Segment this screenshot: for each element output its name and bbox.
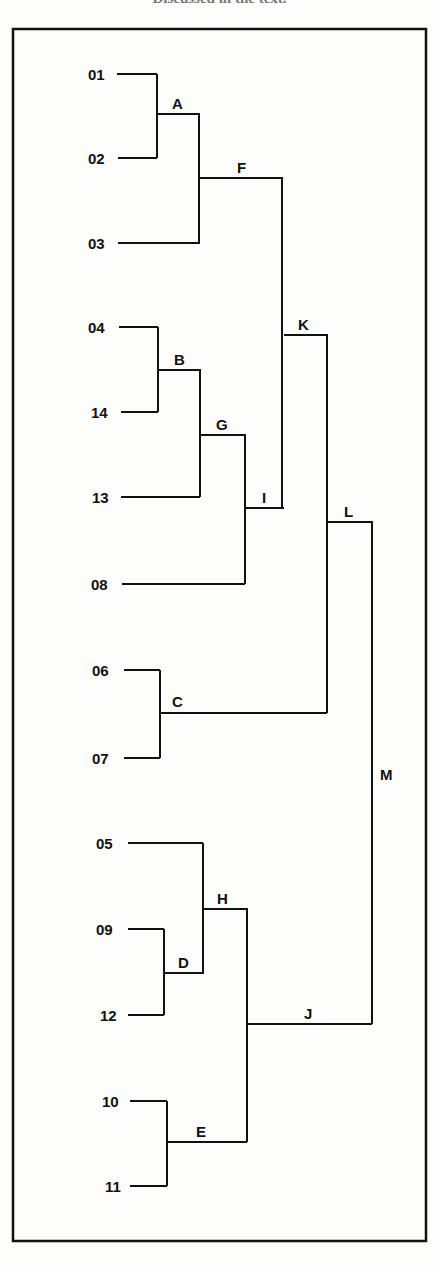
dendrogram: 01 02 03 04 14 13 08 06 07 05 09 12 10 1… bbox=[0, 0, 439, 1266]
leaf-label: 12 bbox=[100, 1007, 117, 1024]
leaf-label: 04 bbox=[88, 319, 105, 336]
leaf-label: 01 bbox=[88, 66, 105, 83]
leaf-label: 09 bbox=[96, 921, 113, 938]
node-label: C bbox=[172, 693, 183, 710]
leaf-label: 07 bbox=[92, 750, 109, 767]
leaf-label: 05 bbox=[96, 835, 113, 852]
node-label: F bbox=[237, 159, 246, 176]
leaf-lines bbox=[117, 74, 245, 1186]
leaf-label: 13 bbox=[92, 489, 109, 506]
leaf-label: 06 bbox=[92, 662, 109, 679]
node-label: B bbox=[174, 351, 185, 368]
leaf-label: 03 bbox=[88, 235, 105, 252]
leaf-label: 11 bbox=[105, 1178, 121, 1195]
leaf-label: 02 bbox=[88, 150, 105, 167]
leaf-label: 14 bbox=[91, 404, 108, 421]
frame-border bbox=[13, 29, 426, 1241]
node-label: G bbox=[216, 416, 228, 433]
node-label: E bbox=[196, 1123, 206, 1140]
node-label: D bbox=[178, 954, 189, 971]
node-label: K bbox=[298, 316, 309, 333]
leaf-label: 08 bbox=[91, 576, 108, 593]
leaf-label: 10 bbox=[102, 1093, 119, 1110]
node-label: I bbox=[262, 489, 266, 506]
node-label: M bbox=[380, 766, 393, 783]
node-label: A bbox=[172, 95, 183, 112]
node-label: J bbox=[304, 1005, 312, 1022]
node-label: H bbox=[217, 890, 228, 907]
cluster-lines bbox=[157, 74, 372, 1186]
node-label: L bbox=[344, 503, 353, 520]
